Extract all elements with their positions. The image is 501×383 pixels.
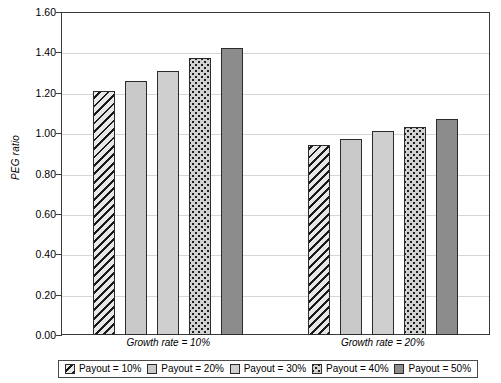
legend-item: Payout = 50% (394, 364, 471, 374)
y-axis-tick-mark (56, 214, 62, 215)
y-axis-tick-label: 1.20 (14, 88, 56, 98)
peg-ratio-bar-chart: PEG ratio 0.000.200.400.600.801.001.201.… (0, 0, 501, 383)
legend-label: Payout = 50% (408, 364, 471, 374)
y-axis-tick-mark (56, 12, 62, 13)
bar (404, 127, 426, 335)
bar (157, 71, 179, 335)
bar (340, 139, 362, 335)
x-axis-category-labels: Growth rate = 10%Growth rate = 20% (61, 337, 490, 355)
y-axis-tick-label: 1.40 (14, 47, 56, 57)
legend-swatch-icon (312, 364, 322, 374)
legend-label: Payout = 30% (244, 364, 307, 374)
y-axis-tick-mark (56, 254, 62, 255)
chart-legend: Payout = 10%Payout = 20%Payout = 30%Payo… (58, 360, 478, 378)
bar (372, 131, 394, 335)
y-axis-tick-mark (56, 133, 62, 134)
x-axis-category-label: Growth rate = 10% (61, 337, 276, 348)
y-axis-tick-mark (56, 174, 62, 175)
legend-label: Payout = 10% (79, 364, 142, 374)
y-axis-tick-label: 0.00 (14, 330, 56, 340)
legend-item: Payout = 40% (312, 364, 389, 374)
bar (125, 81, 147, 335)
y-axis-tick-label: 0.60 (14, 209, 56, 219)
legend-swatch-icon (147, 364, 157, 374)
bar (93, 91, 115, 335)
bar (308, 145, 330, 335)
legend-swatch-icon (230, 364, 240, 374)
y-axis-tick-labels: 0.000.200.400.600.801.001.201.401.60 (14, 0, 56, 345)
legend-swatch-icon (65, 364, 75, 374)
y-axis-tick-label: 1.60 (14, 7, 56, 17)
y-axis-tick-label: 0.80 (14, 169, 56, 179)
legend-label: Payout = 40% (326, 364, 389, 374)
bars-layer (61, 12, 490, 335)
y-axis-tick-mark (56, 335, 62, 336)
bar (436, 119, 458, 335)
legend-item: Payout = 20% (147, 364, 224, 374)
y-axis-tick-label: 0.20 (14, 290, 56, 300)
y-axis-tick-mark (56, 295, 62, 296)
legend-label: Payout = 20% (161, 364, 224, 374)
y-axis-tick-mark (56, 52, 62, 53)
y-axis-tick-label: 1.00 (14, 128, 56, 138)
bar (221, 48, 243, 335)
bar (189, 58, 211, 335)
y-axis-tick-label: 0.40 (14, 249, 56, 259)
legend-item: Payout = 10% (65, 364, 142, 374)
legend-swatch-icon (394, 364, 404, 374)
x-axis-category-label: Growth rate = 20% (276, 337, 491, 348)
legend-item: Payout = 30% (230, 364, 307, 374)
y-axis-tick-mark (56, 93, 62, 94)
